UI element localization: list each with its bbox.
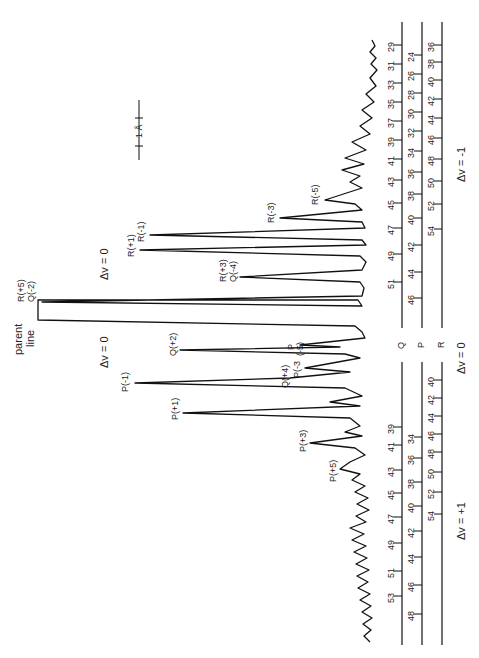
peak-label-q+2: Q(+2) <box>168 333 178 356</box>
svg-text:36: 36 <box>406 169 416 179</box>
peak-label-r+3: R(+3) <box>218 259 228 282</box>
dv0-bottom-label: Δv = 0 <box>455 342 467 374</box>
svg-text:43: 43 <box>386 467 396 477</box>
svg-text:48: 48 <box>426 449 436 459</box>
svg-text:50: 50 <box>426 178 436 188</box>
svg-text:44: 44 <box>426 413 436 423</box>
peak-label-q+4: Q(+4) <box>280 365 290 388</box>
peak-label-r-5: R(-5) <box>310 185 320 206</box>
svg-text:45: 45 <box>386 200 396 210</box>
svg-text:48: 48 <box>426 156 436 166</box>
svg-text:45: 45 <box>386 490 396 500</box>
scale-bar: 1 Å <box>134 100 144 160</box>
peak-label-r-3: R(-3) <box>266 203 276 224</box>
svg-text:30: 30 <box>406 109 416 119</box>
svg-text:51: 51 <box>386 568 396 578</box>
svg-text:42: 42 <box>406 242 416 252</box>
svg-text:51: 51 <box>386 279 396 289</box>
svg-text:47: 47 <box>386 225 396 235</box>
svg-text:28: 28 <box>406 90 416 100</box>
svg-text:40: 40 <box>406 503 416 513</box>
svg-text:35: 35 <box>386 99 396 109</box>
svg-text:52: 52 <box>426 201 436 211</box>
svg-text:42: 42 <box>406 528 416 538</box>
svg-text:52: 52 <box>426 489 436 499</box>
peak-label-q-2: Q(-2) <box>26 281 36 302</box>
svg-text:R: R <box>436 341 446 348</box>
svg-text:24: 24 <box>406 52 416 62</box>
spectrum-figure: R(-5) R(-3) R(-1) R(+1) R(+3) Q(-4) R(+5… <box>0 0 479 658</box>
svg-text:42: 42 <box>426 96 436 106</box>
ruler-q-upper: 29 31 33 35 37 39 41 43 45 47 49 51 <box>386 42 402 289</box>
svg-text:40: 40 <box>426 77 436 87</box>
svg-text:Q: Q <box>396 342 406 349</box>
svg-text:44: 44 <box>406 269 416 279</box>
peak-label-r-1: R(-1) <box>136 222 146 243</box>
svg-text:31: 31 <box>386 61 396 71</box>
svg-text:42: 42 <box>426 395 436 405</box>
peak-label-p+5: P(+5) <box>328 460 338 482</box>
ruler-p-upper: 24 26 28 30 32 34 36 38 40 42 44 46 <box>406 52 422 305</box>
peak-label-p+3: P(+3) <box>298 430 308 452</box>
branch-letters: Q P R <box>396 341 446 349</box>
peak-label-r+1: R(+1) <box>126 234 136 257</box>
peak-label-p+1: P(+1) <box>170 398 180 420</box>
svg-text:50: 50 <box>426 469 436 479</box>
svg-text:39: 39 <box>386 424 396 434</box>
svg-text:43: 43 <box>386 177 396 187</box>
parent-line-label-2: line <box>24 330 36 347</box>
svg-text:40: 40 <box>406 215 416 225</box>
ruler-q-lower: 39 41 43 45 47 49 51 53 <box>386 424 402 603</box>
svg-text:32: 32 <box>406 128 416 138</box>
svg-text:1 Å: 1 Å <box>134 124 144 138</box>
dv-minus1-label: Δv = -1 <box>455 147 467 182</box>
peak-label-q-4: Q(-4) <box>228 261 238 282</box>
svg-text:44: 44 <box>406 554 416 564</box>
svg-text:46: 46 <box>406 295 416 305</box>
svg-text:36: 36 <box>426 42 436 52</box>
svg-text:34: 34 <box>406 434 416 444</box>
svg-text:38: 38 <box>426 59 436 69</box>
svg-text:46: 46 <box>406 582 416 592</box>
dv-plus1-label: Δv = +1 <box>455 502 467 540</box>
svg-text:41: 41 <box>386 442 396 452</box>
svg-text:33: 33 <box>386 80 396 90</box>
parent-line-label: parent <box>12 324 24 355</box>
peak-label-p-1: P(-1) <box>120 372 130 392</box>
peak-label-p-5b: (-5) <box>295 342 305 356</box>
svg-text:40: 40 <box>426 377 436 387</box>
svg-text:47: 47 <box>386 514 396 524</box>
dv0-upper: Δv = 0 <box>98 248 110 280</box>
svg-text:49: 49 <box>386 251 396 261</box>
svg-text:26: 26 <box>406 71 416 81</box>
svg-text:53: 53 <box>386 593 396 603</box>
svg-text:48: 48 <box>406 611 416 621</box>
svg-text:44: 44 <box>426 115 436 125</box>
ruler-r-lower: 40 42 44 46 48 50 52 54 <box>426 377 442 521</box>
peak-label-r+5: R(+5) <box>16 279 26 302</box>
ruler-r-upper: 36 38 40 42 44 46 48 50 52 54 <box>426 42 442 236</box>
svg-text:49: 49 <box>386 540 396 550</box>
ruler-p-lower: 34 36 38 40 42 44 46 48 <box>406 434 422 621</box>
peak-labels: R(-5) R(-3) R(-1) R(+1) R(+3) Q(-4) R(+5… <box>12 185 338 483</box>
spectrum-trace <box>38 40 377 642</box>
svg-text:P: P <box>416 342 426 348</box>
svg-text:46: 46 <box>426 431 436 441</box>
svg-text:54: 54 <box>426 226 436 236</box>
svg-text:36: 36 <box>406 455 416 465</box>
svg-text:37: 37 <box>386 118 396 128</box>
svg-text:38: 38 <box>406 479 416 489</box>
svg-text:34: 34 <box>406 148 416 158</box>
svg-text:29: 29 <box>386 42 396 52</box>
svg-text:38: 38 <box>406 191 416 201</box>
peak-label-p-3: P(-3 <box>292 361 302 378</box>
svg-text:41: 41 <box>386 156 396 166</box>
dv0-lower: Δv = 0 <box>98 336 110 368</box>
svg-text:54: 54 <box>426 511 436 521</box>
svg-text:39: 39 <box>386 137 396 147</box>
svg-text:46: 46 <box>426 135 436 145</box>
